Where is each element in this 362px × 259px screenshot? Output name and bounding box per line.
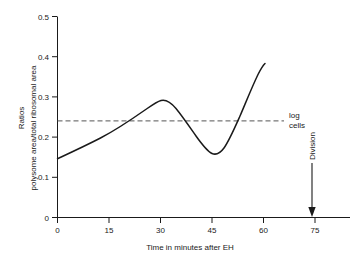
x-tick-label-1: 15	[105, 226, 114, 235]
division-label: Division	[308, 132, 317, 160]
y-axis-ticks	[52, 17, 58, 218]
y-tick-label-2: 0.2	[38, 133, 50, 142]
x-axis-tick-labels: 0 15 30 45 60 75	[55, 226, 320, 235]
y-tick-label-0: 0	[45, 214, 50, 223]
division-arrow-head-icon	[308, 207, 315, 217]
y-axis-title-primary: Ratios	[17, 107, 26, 130]
x-tick-label-3: 45	[208, 226, 217, 235]
x-tick-label-2: 30	[156, 226, 165, 235]
log-cells-label-line1: log	[289, 111, 300, 120]
y-tick-label-5: 0.5	[38, 13, 50, 22]
division-marker: Division	[308, 132, 317, 217]
y-tick-label-3: 0.3	[38, 93, 50, 102]
data-series-curve	[58, 64, 266, 159]
y-tick-label-4: 0.4	[38, 53, 50, 62]
x-tick-label-0: 0	[55, 226, 60, 235]
x-tick-label-5: 75	[311, 226, 320, 235]
chart-figure: 0 0.1 0.2 0.3 0.4 0.5 0 15 30 45 60 75 T…	[0, 0, 362, 259]
x-axis-title: Time in minutes after EH	[146, 243, 234, 252]
y-axis-title-secondary: polysome area/total ribosomal area	[29, 65, 38, 191]
x-tick-label-4: 60	[259, 226, 268, 235]
y-axis-tick-labels: 0 0.1 0.2 0.3 0.4 0.5	[38, 13, 50, 223]
chart-canvas: 0 0.1 0.2 0.3 0.4 0.5 0 15 30 45 60 75 T…	[0, 0, 362, 259]
y-tick-label-1: 0.1	[38, 173, 50, 182]
x-axis-ticks	[58, 218, 316, 224]
log-cells-label-line2: cells	[289, 121, 305, 130]
